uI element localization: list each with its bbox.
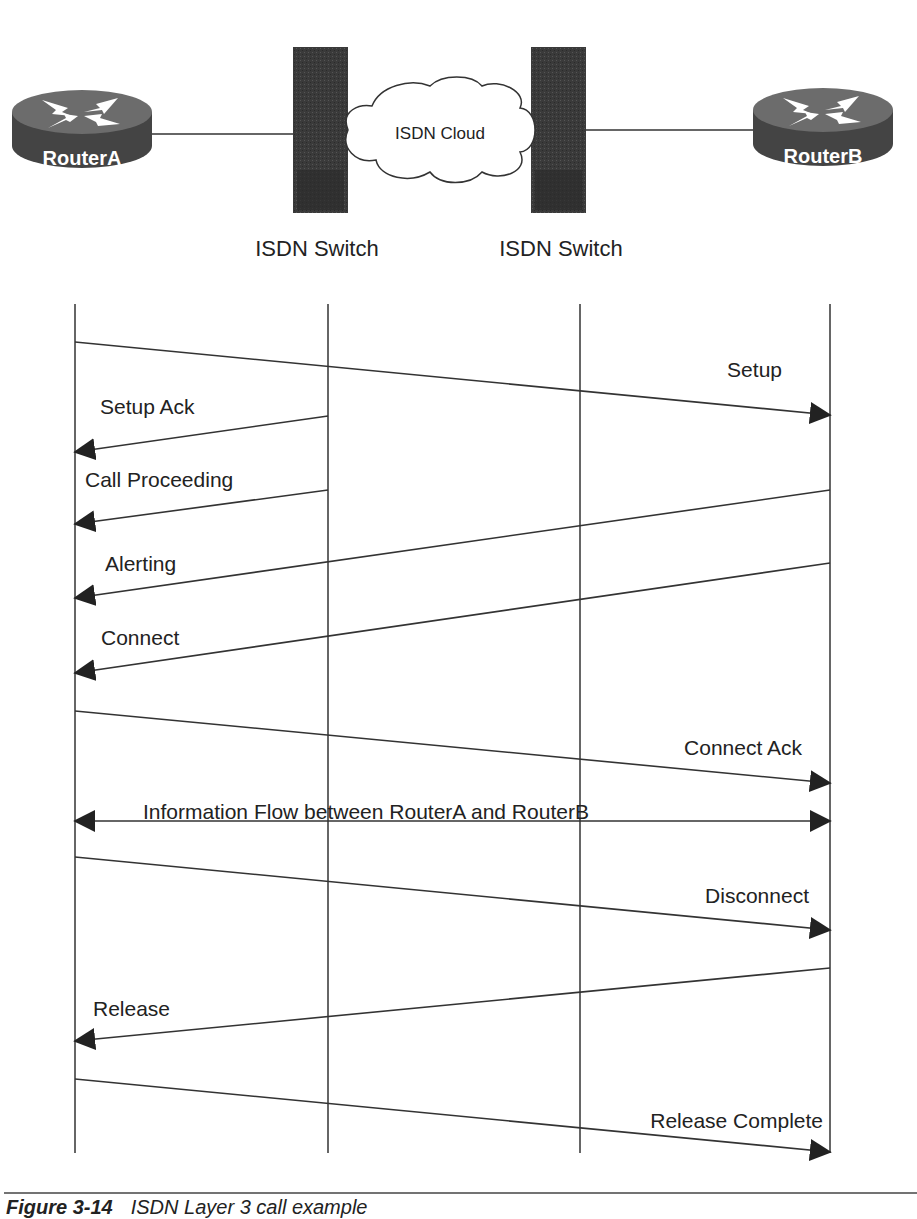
figure-caption: Figure 3-14ISDN Layer 3 call example <box>6 1196 367 1219</box>
router-b-label: RouterB <box>784 145 863 167</box>
msg-call-proceeding-arrow <box>75 490 328 524</box>
msg-setup-label: Setup <box>727 358 782 381</box>
isdn-cloud-icon: ISDN Cloud <box>346 77 535 183</box>
topology: RouterA RouterB ISDN Cloud <box>12 47 893 261</box>
msg-connect-label: Connect <box>101 626 179 649</box>
msg-call-proceeding-b-segment <box>75 490 830 598</box>
router-b-icon: RouterB <box>753 88 893 167</box>
message-labels: Setup Setup Ack Call Proceeding Alerting… <box>85 358 823 1132</box>
lifelines <box>75 304 830 1153</box>
msg-connect-ack-label: Connect Ack <box>684 736 802 759</box>
msg-setup-ack-label: Setup Ack <box>100 395 195 418</box>
isdn-switch-left-icon <box>293 47 348 213</box>
router-a-label: RouterA <box>43 147 122 169</box>
isdn-switch-left-label: ISDN Switch <box>255 236 378 261</box>
msg-release-arrow <box>75 968 830 1041</box>
router-a-icon: RouterA <box>12 90 152 169</box>
msg-call-proceeding-label: Call Proceeding <box>85 468 233 491</box>
msg-information-flow-label: Information Flow between RouterA and Rou… <box>143 800 589 823</box>
msg-connect-arrow <box>75 563 830 673</box>
msg-alerting-label: Alerting <box>105 552 176 575</box>
msg-release-label: Release <box>93 997 170 1020</box>
isdn-switch-right-icon <box>531 47 586 213</box>
msg-disconnect-label: Disconnect <box>705 884 809 907</box>
figure-title: ISDN Layer 3 call example <box>131 1196 368 1218</box>
msg-release-complete-label: Release Complete <box>650 1109 823 1132</box>
msg-setup-ack-arrow <box>75 416 328 452</box>
isdn-cloud-label: ISDN Cloud <box>395 124 485 143</box>
isdn-switch-right-label: ISDN Switch <box>499 236 622 261</box>
figure-number: Figure 3-14 <box>6 1196 113 1218</box>
